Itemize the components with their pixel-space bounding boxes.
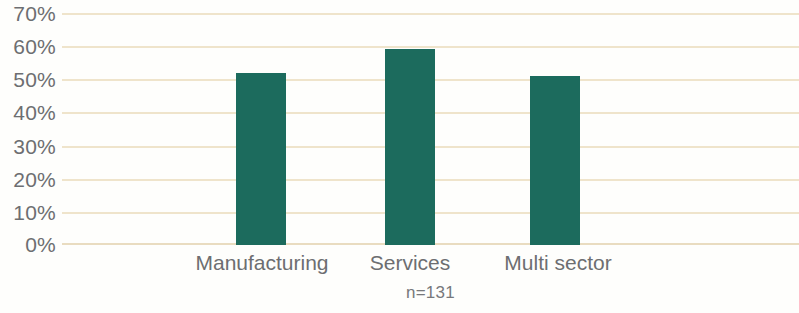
y-tick-0: 0%	[0, 234, 56, 255]
y-tick-20: 20%	[0, 169, 56, 190]
x-tick-multi-sector: Multi sector	[468, 248, 648, 278]
y-axis-labels: 70% 60% 50% 40% 30% 20% 10% 0%	[0, 0, 56, 260]
bar-manufacturing	[236, 73, 286, 245]
y-tick-40: 40%	[0, 102, 56, 123]
y-tick-70: 70%	[0, 3, 56, 24]
x-tick-services: Services	[330, 248, 490, 278]
x-tick-manufacturing: Manufacturing	[172, 248, 352, 278]
bar-multi-sector	[530, 76, 580, 245]
y-tick-50: 50%	[0, 69, 56, 90]
y-tick-30: 30%	[0, 136, 56, 157]
x-axis-labels: Manufacturing Services Multi sector	[62, 248, 799, 280]
sample-size-note: n=131	[62, 283, 799, 303]
bar-chart-figure: 70% 60% 50% 40% 30% 20% 10% 0% Manufactu…	[0, 0, 799, 313]
y-tick-10: 10%	[0, 202, 56, 223]
y-tick-60: 60%	[0, 36, 56, 57]
bar-services	[385, 49, 435, 245]
